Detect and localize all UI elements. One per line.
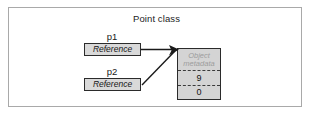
object-metadata-section: Object metadata [178,49,220,71]
object-instance-box[interactable]: Object metadata 9 0 [177,48,221,100]
figure-canvas: Point class p1 Reference p2 Reference Ob… [0,0,313,117]
variable-label-p2: p2 [84,67,140,77]
reference-box-p1[interactable]: Reference [84,43,141,56]
reference-box-p2[interactable]: Reference [84,78,141,91]
variable-label-p1: p1 [84,32,140,42]
object-metadata-line-2: metadata [183,60,214,69]
object-field-row: 0 [178,86,220,100]
object-field-row: 9 [178,71,220,86]
page-title: Point class [0,13,313,24]
